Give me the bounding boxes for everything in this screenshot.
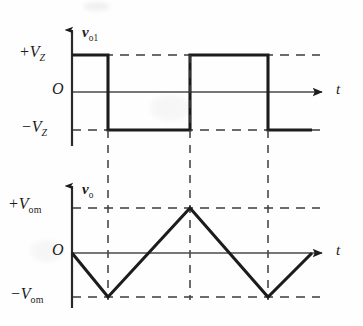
top-tick-label-negative: −VZ: [21, 119, 47, 138]
top-y-axis-label: vo1: [82, 25, 98, 43]
bottom-x-axis-label: t: [336, 243, 340, 258]
top-origin-label: O: [52, 81, 64, 97]
waveform-canvas: [0, 0, 363, 326]
bottom-tick-positive-text: +V: [8, 195, 29, 212]
top-tick-positive-subscript: Z: [40, 52, 46, 63]
bottom-tick-negative-text: −V: [10, 285, 31, 302]
bottom-tick-positive-subscript: om: [29, 204, 42, 215]
bottom-tick-label-negative: −Vom: [10, 286, 44, 305]
top-y-axis-label-subscript: o1: [89, 33, 99, 43]
top-tick-label-positive: +VZ: [19, 44, 45, 63]
top-x-axis-label: t: [336, 82, 340, 97]
bottom-y-axis-label-text: v: [82, 181, 89, 197]
bottom-y-axis-label: vo: [82, 182, 94, 200]
top-tick-positive-text: +V: [19, 43, 40, 60]
plot-square-wave: [72, 30, 322, 146]
bottom-tick-negative-subscript: om: [31, 294, 44, 305]
top-tick-negative-text: −V: [21, 118, 42, 135]
plot-triangle-wave: [72, 186, 322, 308]
top-tick-negative-subscript: Z: [42, 127, 48, 138]
top-y-axis-label-text: v: [82, 24, 89, 40]
bottom-origin-label: O: [52, 242, 64, 258]
waveform-figure: vo1 +VZ O −VZ t vo +Vom O −Vom t: [0, 0, 363, 326]
bottom-y-axis-label-subscript: o: [89, 190, 94, 200]
bottom-tick-label-positive: +Vom: [8, 196, 42, 215]
